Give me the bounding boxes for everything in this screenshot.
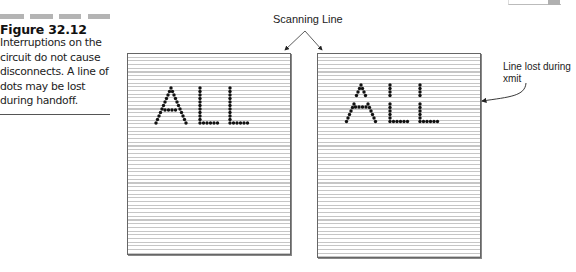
scanning-line-arrows: [285, 31, 322, 50]
letter-l1-dots: [198, 86, 219, 124]
letter-a-dots: [154, 86, 187, 124]
right-all-dots: [345, 83, 439, 123]
letter-l2-dots-gapped: [418, 83, 439, 123]
letter-a-dots-gapped: [345, 83, 377, 123]
left-all-dots: [154, 86, 249, 124]
diagram-overlay: [0, 0, 576, 272]
letter-l2-dots: [228, 86, 249, 124]
line-lost-arrow: [482, 83, 526, 101]
letter-l1-dots-gapped: [388, 83, 409, 123]
